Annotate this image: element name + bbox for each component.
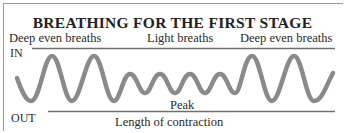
breathing-wave [17,56,333,101]
breathing-wave-diagram [0,0,345,133]
